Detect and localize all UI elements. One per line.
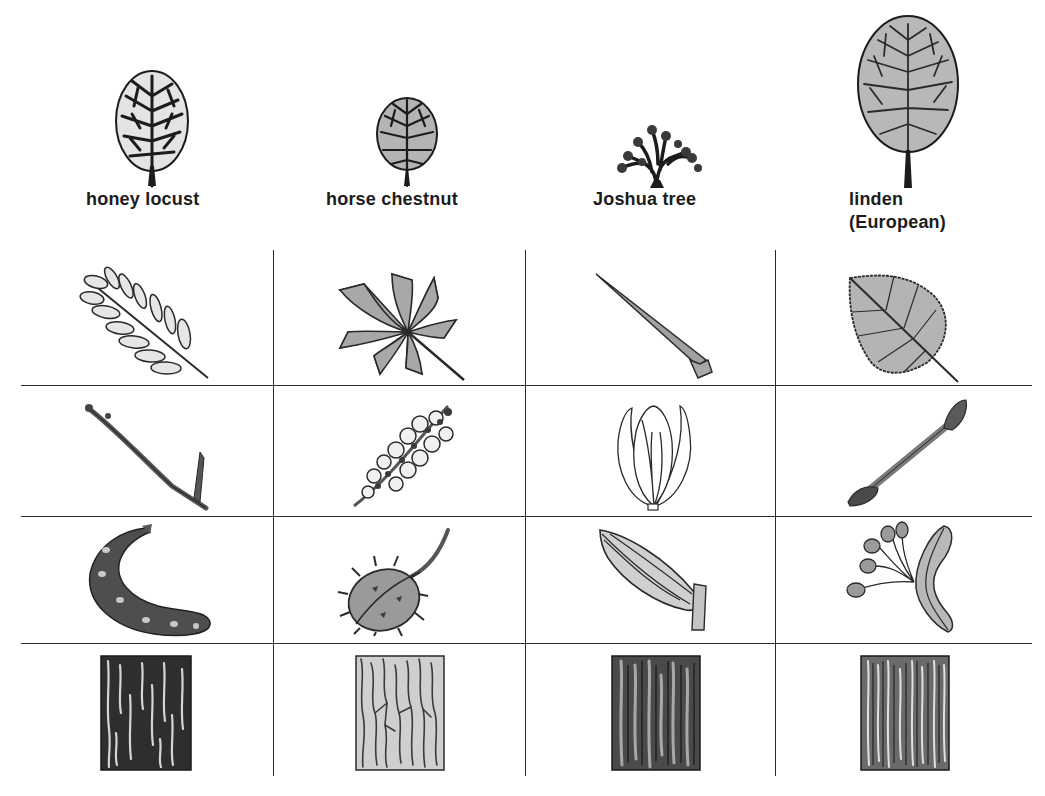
grid-divider-col-2 [525,250,526,776]
grid-divider-row-3 [21,643,1032,644]
tree-label-joshua-tree: Joshua tree [593,188,696,211]
honey-locust-silhouette-icon [112,66,192,188]
linden-fruit-icon [844,524,968,636]
linden-leaf-icon [846,272,966,384]
horse-chestnut-fruit-icon [336,528,460,636]
grid-divider-row-2 [21,516,1032,517]
honey-locust-twig-icon [82,402,212,510]
horse-chestnut-leaf-icon [336,270,468,382]
tree-label-horse-chestnut: horse chestnut [326,188,458,211]
grid-divider-row-1 [21,385,1032,386]
joshua-tree-flower-icon [612,402,698,512]
linden-twig-icon [844,398,972,510]
joshua-tree-silhouette-icon [612,124,704,188]
linden-bark-icon [860,655,950,771]
horse-chestnut-silhouette-icon [375,92,439,188]
tree-label-honey-locust: honey locust [86,188,199,211]
horse-chestnut-bark-icon [355,655,445,771]
honey-locust-bark-icon [100,655,192,771]
honey-locust-fruit-icon [84,524,216,638]
joshua-tree-bark-icon [611,655,701,771]
linden-silhouette-icon [856,12,960,188]
grid-divider-col-3 [775,250,776,776]
joshua-tree-fruit-icon [596,528,722,638]
joshua-tree-leaf-icon [594,272,718,380]
honey-locust-leaf-icon [78,268,214,382]
grid-divider-col-1 [273,250,274,776]
tree-label-linden: linden (European) [849,188,946,234]
horse-chestnut-flower-icon [348,400,464,512]
